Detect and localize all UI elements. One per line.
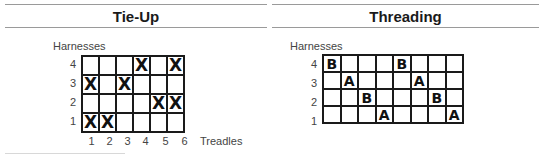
tieup-harnesses-label: Harnesses <box>53 40 106 52</box>
threading-cell <box>323 106 341 123</box>
threading-title: Threading <box>272 8 539 25</box>
threading-cell <box>376 89 394 106</box>
threading-row-label: 3 <box>305 77 317 89</box>
tieup-mark-x: X <box>168 95 183 112</box>
tieup-cell: X <box>167 56 184 75</box>
threading-cell <box>446 55 464 72</box>
threading-cell: A <box>446 106 464 123</box>
threading-cell: B <box>323 55 341 72</box>
bottom-rule-left <box>5 153 125 154</box>
threading-row-label: 4 <box>305 58 317 70</box>
tieup-cell <box>82 94 99 113</box>
threading-cell <box>393 106 411 123</box>
tieup-row: XX <box>82 56 184 75</box>
tieup-mark-x: X <box>83 114 98 131</box>
threading-cell <box>358 55 376 72</box>
threading-grid: BBAABBAA <box>322 54 464 124</box>
threading-cell <box>446 72 464 89</box>
tieup-cell: X <box>133 56 150 75</box>
threading-cell <box>323 72 341 89</box>
tieup-cell <box>133 113 150 132</box>
tieup-col-label: 1 <box>82 135 101 147</box>
threading-cell: A <box>341 72 359 89</box>
threading-cell <box>341 89 359 106</box>
tieup-mark-x: X <box>117 76 132 93</box>
threading-row: AA <box>323 106 463 123</box>
threading-cell: B <box>393 55 411 72</box>
tieup-col-label: 6 <box>175 135 194 147</box>
threading-cell: A <box>411 72 429 89</box>
tieup-row-label: 4 <box>64 58 76 70</box>
tieup-cell: X <box>150 94 167 113</box>
tieup-cell <box>116 56 133 75</box>
tieup-cell: X <box>99 113 116 132</box>
threading-mark-a: A <box>447 108 463 122</box>
threading-cell: A <box>376 106 394 123</box>
threading-mark-a: A <box>412 74 428 88</box>
tieup-mark-x: X <box>134 57 149 74</box>
tieup-cell: X <box>82 113 99 132</box>
threading-mark-b: B <box>394 57 410 71</box>
tieup-treadles-label: Treadles <box>200 135 242 147</box>
tieup-row-label: 3 <box>64 77 76 89</box>
threading-mark-b: B <box>324 57 340 71</box>
tieup-cell <box>99 56 116 75</box>
tieup-col-label: 3 <box>118 135 137 147</box>
tieup-cell <box>150 56 167 75</box>
tieup-mark-x: X <box>83 76 98 93</box>
threading-cell <box>428 55 446 72</box>
threading-row: BB <box>323 89 463 106</box>
tieup-cell: X <box>116 75 133 94</box>
threading-cell <box>411 55 429 72</box>
tieup-cell <box>116 113 133 132</box>
threading-cell <box>323 89 341 106</box>
top-rule-right <box>272 4 539 5</box>
threading-cell <box>341 55 359 72</box>
tieup-row: XX <box>82 113 184 132</box>
tieup-cell: X <box>82 75 99 94</box>
tieup-cell <box>99 75 116 94</box>
threading-row-label: 2 <box>305 96 317 108</box>
tieup-cell <box>150 113 167 132</box>
header-rule-left <box>5 27 267 28</box>
threading-mark-a: A <box>342 74 358 88</box>
threading-cell <box>411 106 429 123</box>
tieup-col-label: 5 <box>156 135 175 147</box>
threading-mark-b: B <box>429 91 445 105</box>
threading-cell <box>376 55 394 72</box>
threading-cell <box>358 106 376 123</box>
threading-cell <box>393 89 411 106</box>
top-rule-left <box>5 4 267 5</box>
tieup-col-label: 4 <box>136 135 155 147</box>
tieup-cell <box>99 94 116 113</box>
threading-cell <box>358 72 376 89</box>
tieup-title: Tie-Up <box>5 8 267 25</box>
threading-cell <box>411 89 429 106</box>
tieup-col-label: 2 <box>100 135 119 147</box>
tieup-cell: X <box>167 94 184 113</box>
tieup-cell <box>167 113 184 132</box>
threading-cell: B <box>358 89 376 106</box>
tieup-cell <box>150 75 167 94</box>
tieup-cell <box>167 75 184 94</box>
tieup-grid: XXXXXXXX <box>81 55 185 133</box>
threading-cell: B <box>428 89 446 106</box>
header-rule-right <box>272 27 539 28</box>
tieup-row-label: 2 <box>64 96 76 108</box>
tieup-cell <box>133 75 150 94</box>
tieup-row-label: 1 <box>64 115 76 127</box>
threading-cell <box>376 72 394 89</box>
threading-row-label: 1 <box>305 115 317 127</box>
threading-mark-a: A <box>377 108 393 122</box>
threading-row: BB <box>323 55 463 72</box>
tieup-cell <box>82 56 99 75</box>
tieup-mark-x: X <box>151 95 166 112</box>
tieup-cell <box>133 94 150 113</box>
tieup-mark-x: X <box>100 114 115 131</box>
threading-harnesses-label: Harnesses <box>290 40 343 52</box>
threading-cell <box>428 72 446 89</box>
threading-mark-b: B <box>359 91 375 105</box>
tieup-row: XX <box>82 75 184 94</box>
tieup-mark-x: X <box>168 57 183 74</box>
threading-cell <box>341 106 359 123</box>
